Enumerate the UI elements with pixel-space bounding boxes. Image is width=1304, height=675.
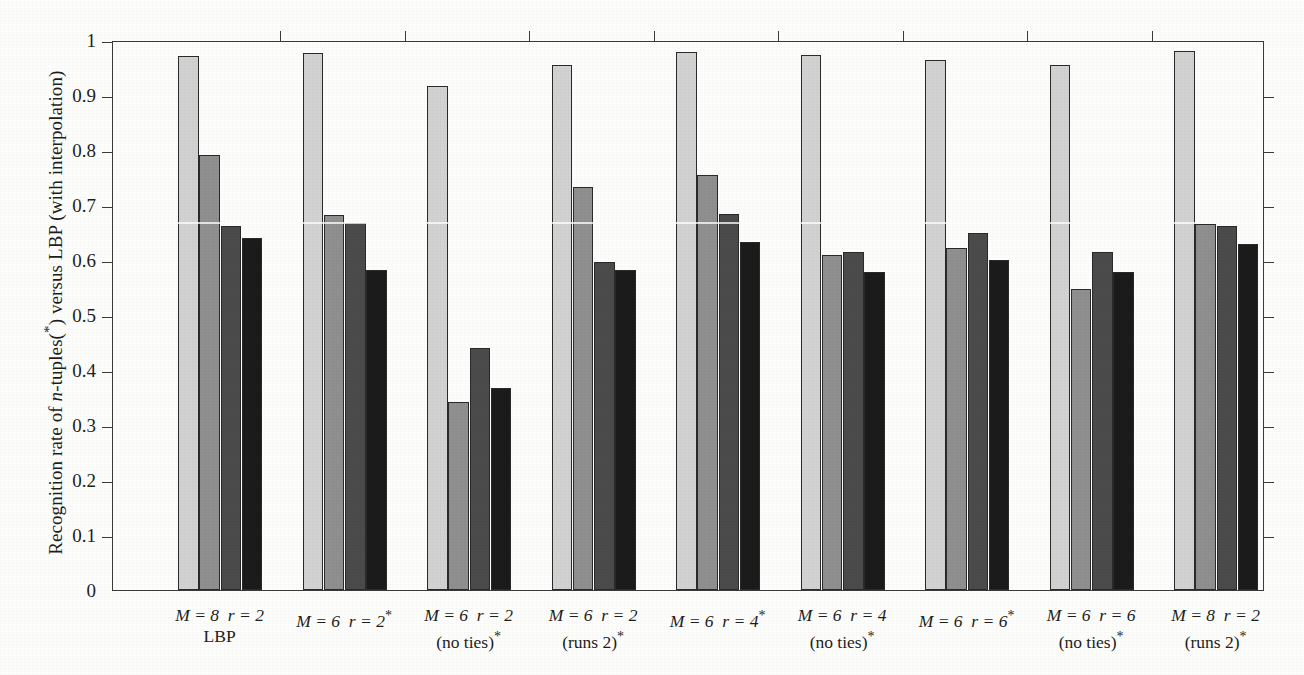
- x-axis-group-label-star: *: [385, 608, 392, 623]
- x-axis-group-label-line1: M = 6 r = 2*: [272, 605, 417, 632]
- bar: [199, 155, 220, 590]
- x-axis-group-label-star: *: [617, 629, 624, 644]
- bar: [1092, 252, 1113, 590]
- x-axis-group-label: M = 6 r = 4(no ties)*: [770, 605, 915, 653]
- x-axis-group-label-line2: (runs 2)*: [1143, 626, 1288, 653]
- bar: [1238, 244, 1259, 591]
- bar: [1217, 226, 1238, 590]
- x-axis-group-label: M = 6 r = 2(no ties)*: [396, 605, 541, 653]
- x-axis-group-label-line1: M = 6 r = 2: [396, 605, 541, 626]
- bar: [1195, 224, 1216, 590]
- x-axis-group-label-line2: (no ties)*: [770, 626, 915, 653]
- x-axis-tick-mark-top: [1027, 31, 1028, 42]
- x-axis-tick-mark-top: [1152, 31, 1153, 42]
- x-axis-tick-mark-top: [903, 31, 904, 42]
- bar: [221, 226, 242, 590]
- y-axis-tick-mark-right: [1263, 262, 1274, 263]
- x-axis-group-label-line1: M = 8 r = 2: [1143, 605, 1288, 626]
- bar: [594, 262, 615, 590]
- x-axis-group-label-star: *: [758, 608, 765, 623]
- x-axis-tick-mark-top: [280, 31, 281, 42]
- x-axis-group-label-star: *: [1007, 608, 1014, 623]
- x-axis-group-label-line2: LBP: [147, 626, 292, 647]
- y-axis-tick-mark: [102, 42, 113, 43]
- x-axis-group-label: M = 8 r = 2(runs 2)*: [1143, 605, 1288, 653]
- y-axis-tick-mark: [102, 427, 113, 428]
- bar: [925, 60, 946, 590]
- y-axis-tick-mark-right: [1263, 207, 1274, 208]
- bar: [740, 242, 761, 590]
- y-axis-tick-label: 0.2: [32, 471, 96, 490]
- y-axis-tick-mark-right: [1263, 427, 1274, 428]
- bar: [178, 56, 199, 590]
- x-axis-group-label-star: *: [1117, 629, 1124, 644]
- y-axis-tick-label: 0.7: [32, 196, 96, 215]
- y-axis-tick-mark-right: [1263, 97, 1274, 98]
- bar: [345, 223, 366, 590]
- x-axis-group-label-star: *: [494, 629, 501, 644]
- y-axis-tick-mark: [102, 97, 113, 98]
- x-axis-group-label: M = 8 r = 2LBP: [147, 605, 292, 647]
- y-axis-tick-mark: [102, 372, 113, 373]
- y-axis-tick-mark-right: [1263, 482, 1274, 483]
- bar: [470, 348, 491, 590]
- bar: [1174, 51, 1195, 590]
- y-axis-tick-label: 0.8: [32, 141, 96, 160]
- bar: [1050, 65, 1071, 590]
- x-axis-tick-mark-top: [529, 31, 530, 42]
- x-axis-group-label-line2: (no ties)*: [1019, 626, 1164, 653]
- y-axis-tick-mark: [102, 317, 113, 318]
- y-axis-title-italic-n: n: [45, 392, 66, 402]
- x-axis-group-label: M = 6 r = 4*: [645, 605, 790, 632]
- y-axis-tick-mark-right: [1263, 152, 1274, 153]
- bar: [801, 55, 822, 590]
- x-axis-group-label: M = 6 r = 6*: [894, 605, 1039, 632]
- x-axis-group-label-line1: M = 6 r = 6: [1019, 605, 1164, 626]
- y-axis-tick-label: 0.6: [32, 251, 96, 270]
- y-axis-tick-mark: [102, 537, 113, 538]
- bar: [697, 175, 718, 590]
- y-axis-tick-label: 1: [32, 31, 96, 50]
- x-axis-group-label-line1: M = 6 r = 2: [521, 605, 666, 626]
- bar: [324, 215, 345, 590]
- x-axis-group-label: M = 6 r = 2*: [272, 605, 417, 632]
- x-axis-tick-mark-top: [654, 31, 655, 42]
- bar: [303, 53, 324, 590]
- bar: [366, 270, 387, 590]
- y-axis-tick-mark-right: [1263, 317, 1274, 318]
- x-axis-group-label: M = 6 r = 2(runs 2)*: [521, 605, 666, 653]
- y-axis-tick-mark-right: [1263, 372, 1274, 373]
- bar: [427, 86, 448, 590]
- bar: [573, 187, 594, 590]
- figure-canvas: Recognition rate of n-tuples(*) versus L…: [0, 0, 1304, 675]
- bar: [491, 388, 512, 590]
- x-axis-tick-mark-top: [405, 31, 406, 42]
- y-axis-tick-label: 0.3: [32, 416, 96, 435]
- bar: [822, 255, 843, 591]
- bar: [719, 214, 740, 590]
- x-axis-group-label-line1: M = 6 r = 4*: [645, 605, 790, 632]
- x-axis-group-label-star: *: [868, 629, 875, 644]
- bar: [615, 270, 636, 590]
- x-axis-group-label-line1: M = 8 r = 2: [147, 605, 292, 626]
- y-axis-tick-mark: [102, 207, 113, 208]
- y-axis-title-star: *: [41, 325, 57, 333]
- x-axis-group-label: M = 6 r = 6(no ties)*: [1019, 605, 1164, 653]
- bar: [946, 248, 967, 590]
- y-axis-tick-mark: [102, 262, 113, 263]
- y-axis-tick-label: 0.5: [32, 306, 96, 325]
- y-axis-tick-label: 0.4: [32, 361, 96, 380]
- x-axis-group-label-star: *: [1240, 629, 1247, 644]
- bar: [242, 238, 263, 590]
- x-axis-group-label-line2: (no ties)*: [396, 626, 541, 653]
- bar: [676, 52, 697, 590]
- bar: [864, 272, 885, 590]
- x-axis-group-label-line1: M = 6 r = 4: [770, 605, 915, 626]
- y-axis-tick-label: 0.1: [32, 526, 96, 545]
- bar: [968, 233, 989, 590]
- x-axis-tick-mark-top: [778, 31, 779, 42]
- bar: [1071, 289, 1092, 590]
- bar: [448, 402, 469, 590]
- x-axis-group-label-line2: (runs 2)*: [521, 626, 666, 653]
- bar: [989, 260, 1010, 590]
